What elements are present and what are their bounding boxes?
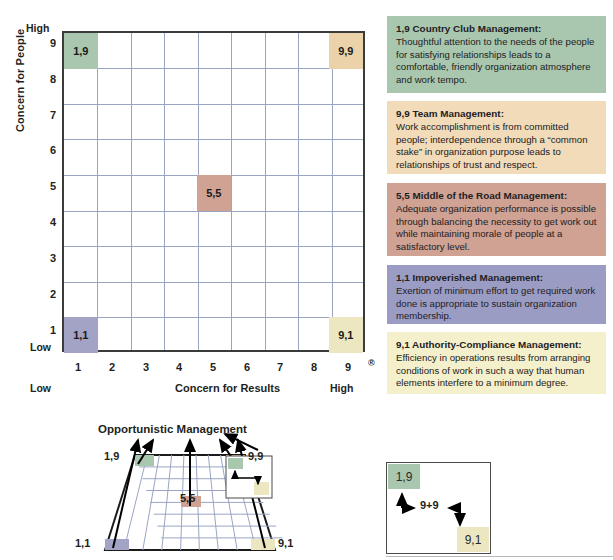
description-heading: 9,9 Team Management: xyxy=(396,108,597,120)
description-body: Thoughtful attention to the needs of the… xyxy=(396,36,597,86)
description-country-club: 1,9 Country Club Management: Thoughtful … xyxy=(387,16,606,93)
x-tick-1: 1 xyxy=(70,361,86,373)
x-tick-5: 5 xyxy=(205,361,221,373)
y-tick-2: 2 xyxy=(40,288,56,300)
cell-1-9[interactable]: 1,9 xyxy=(64,33,98,69)
description-middle-of-the-road: 5,5 Middle of the Road Management: Adequ… xyxy=(387,183,606,256)
gridline-v-1 xyxy=(97,33,98,350)
gridline-h-5 xyxy=(64,211,363,212)
paternalism-figure: 1,9 9,1 9+9 xyxy=(386,462,491,554)
cell-1-1[interactable]: 1,1 xyxy=(64,317,98,353)
y-tick-3: 3 xyxy=(40,252,56,264)
gridline-h-3 xyxy=(64,139,363,140)
y-axis-low-label: Low xyxy=(30,341,51,353)
cell-9-1[interactable]: 9,1 xyxy=(329,317,363,353)
description-team: 9,9 Team Management: Work accomplishment… xyxy=(387,101,606,174)
y-tick-9: 9 xyxy=(40,37,56,49)
x-tick-9: 9 xyxy=(340,361,356,373)
swatch-1-1 xyxy=(105,539,129,550)
description-body: Work accomplishment is from committed pe… xyxy=(396,121,597,171)
gridline-h-8 xyxy=(64,317,363,318)
gridline-h-1 xyxy=(64,68,363,69)
opportunistic-label-1-9: 1,9 xyxy=(104,450,119,462)
y-axis-high-label: High xyxy=(26,22,49,34)
y-tick-6: 6 xyxy=(40,144,56,156)
leadership-grid-page: Concern for People Concern for Results H… xyxy=(0,0,613,560)
description-body: Exertion of minimum effort to get requir… xyxy=(396,285,597,322)
plot-area: 1,9 9,9 5,5 1,1 9,1 xyxy=(62,31,365,352)
opportunistic-diagram xyxy=(60,418,360,560)
bottom-divider xyxy=(386,556,613,557)
x-tick-7: 7 xyxy=(272,361,288,373)
opportunistic-label-9-1: 9,1 xyxy=(278,537,293,549)
description-impoverished: 1,1 Impoverished Management: Exertion of… xyxy=(387,265,606,324)
x-tick-2: 2 xyxy=(104,361,120,373)
opportunistic-label-5-5: 5,5 xyxy=(180,492,195,504)
gridline-h-7 xyxy=(64,282,363,283)
opportunistic-management-figure: Opportunistic Management xyxy=(60,418,360,560)
registered-trademark-icon: ® xyxy=(368,358,375,368)
cell-5-5[interactable]: 5,5 xyxy=(197,175,231,211)
x-axis-low-label: Low xyxy=(30,382,51,394)
x-axis-title: Concern for Results xyxy=(175,382,280,394)
description-heading: 5,5 Middle of the Road Management: xyxy=(396,190,597,202)
gridline-v-8 xyxy=(332,33,333,350)
y-tick-4: 4 xyxy=(40,216,56,228)
description-heading: 9,1 Authority-Compliance Management: xyxy=(396,339,597,351)
opportunistic-label-1-1: 1,1 xyxy=(75,537,90,549)
style-descriptions-panel: 1,9 Country Club Management: Thoughtful … xyxy=(387,0,613,415)
y-tick-7: 7 xyxy=(40,109,56,121)
y-tick-5: 5 xyxy=(40,180,56,192)
gridline-v-7 xyxy=(298,33,299,350)
leadership-grid-figure: Concern for People Concern for Results H… xyxy=(0,0,380,415)
y-axis-title: Concern for People xyxy=(14,29,26,132)
opportunistic-inset-box xyxy=(226,456,272,498)
description-heading: 1,1 Impoverished Management: xyxy=(396,272,597,284)
gridline-h-6 xyxy=(64,246,363,247)
y-tick-1: 1 xyxy=(40,324,56,336)
description-body: Efficiency in operations results from ar… xyxy=(396,352,597,389)
x-tick-6: 6 xyxy=(239,361,255,373)
gridline-h-2 xyxy=(64,104,363,105)
x-tick-3: 3 xyxy=(138,361,154,373)
x-axis-high-label: High xyxy=(330,382,353,394)
gridline-v-3 xyxy=(164,33,165,350)
gridline-v-2 xyxy=(131,33,132,350)
swatch-1-9 xyxy=(135,455,154,466)
x-tick-4: 4 xyxy=(171,361,187,373)
gridline-v-6 xyxy=(265,33,266,350)
cell-9-9[interactable]: 9,9 xyxy=(329,33,363,69)
opportunistic-label-9-9: 9,9 xyxy=(248,450,263,462)
gridline-v-5 xyxy=(231,33,232,350)
description-body: Adequate organization performance is pos… xyxy=(396,203,597,253)
y-tick-8: 8 xyxy=(40,73,56,85)
x-tick-8: 8 xyxy=(306,361,322,373)
paternalism-arrows xyxy=(387,463,490,553)
description-authority-compliance: 9,1 Authority-Compliance Management: Eff… xyxy=(387,332,606,394)
description-heading: 1,9 Country Club Management: xyxy=(396,23,597,35)
